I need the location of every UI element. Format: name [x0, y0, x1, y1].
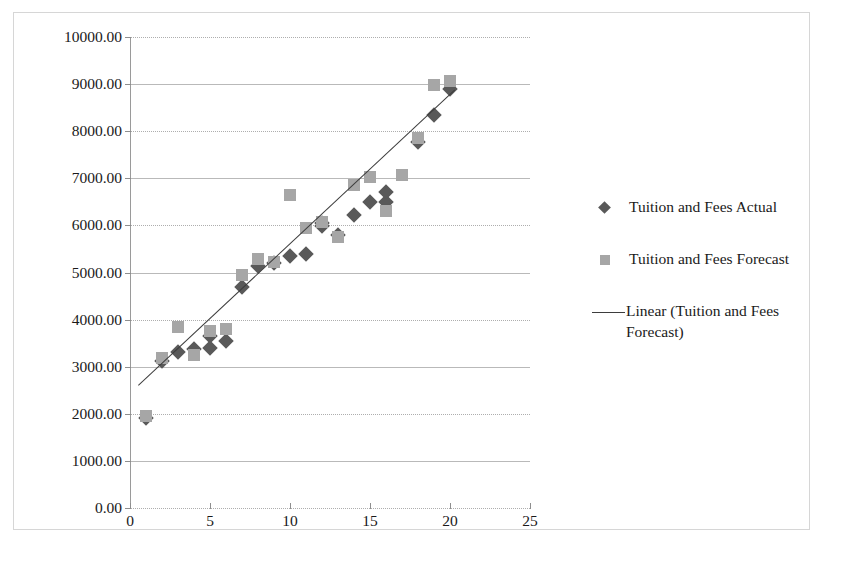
y-axis-tick-label: 9000.00	[10, 76, 122, 92]
diamond-marker-icon	[598, 201, 611, 214]
data-point-diamond	[346, 207, 362, 223]
data-point-square	[412, 132, 424, 144]
data-point-square	[444, 75, 456, 87]
data-point-square	[396, 169, 408, 181]
y-axis-tick-label: 8000.00	[10, 123, 122, 139]
legend-item-trendline[interactable]: Linear (Tuition and Fees Forecast)	[596, 300, 828, 342]
x-axis-tick-label: 25	[510, 513, 550, 529]
plot-area	[130, 37, 530, 508]
data-point-square	[252, 253, 264, 265]
y-axis-tick-label: 10000.00	[10, 29, 122, 45]
x-axis-tick-label: 15	[350, 513, 390, 529]
legend-label-actual: Tuition and Fees Actual	[629, 196, 828, 217]
line-marker-icon	[592, 312, 625, 313]
data-point-square	[428, 79, 440, 91]
data-point-square	[380, 205, 392, 217]
trendline	[138, 89, 455, 386]
gridline	[130, 508, 530, 509]
x-axis-tick-label: 0	[110, 513, 150, 529]
legend-item-actual[interactable]: Tuition and Fees Actual	[596, 196, 828, 218]
legend-label-trendline: Linear (Tuition and Fees Forecast)	[626, 300, 828, 342]
chart-legend: Tuition and Fees Actual Tuition and Fees…	[596, 196, 828, 342]
data-point-square	[172, 321, 184, 333]
y-axis-tick-label: 6000.00	[10, 217, 122, 233]
data-point-square	[188, 349, 200, 361]
data-point-diamond	[202, 340, 218, 356]
x-axis-tick-label: 20	[430, 513, 470, 529]
data-point-diamond	[282, 248, 298, 264]
legend-label-forecast: Tuition and Fees Forecast	[629, 248, 828, 269]
data-point-square	[332, 231, 344, 243]
y-axis-tick-label: 0.00	[10, 500, 122, 516]
y-axis-tick-label: 1000.00	[10, 453, 122, 469]
scatter-chart: 0.001000.002000.003000.004000.005000.006…	[0, 0, 859, 568]
y-axis-tick-label: 2000.00	[10, 406, 122, 422]
data-point-square	[284, 189, 296, 201]
x-axis-tick-label: 5	[190, 513, 230, 529]
x-axis-tick-label: 10	[270, 513, 310, 529]
data-point-diamond	[298, 246, 314, 262]
data-point-square	[204, 325, 216, 337]
data-point-square	[140, 410, 152, 422]
legend-item-forecast[interactable]: Tuition and Fees Forecast	[596, 248, 828, 270]
y-axis-tick-label: 3000.00	[10, 359, 122, 375]
x-axis-tick	[530, 503, 531, 509]
y-axis-tick-label: 7000.00	[10, 170, 122, 186]
data-point-square	[236, 269, 248, 281]
y-axis-tick-label: 4000.00	[10, 312, 122, 328]
data-point-diamond	[362, 194, 378, 210]
data-point-square	[220, 323, 232, 335]
y-axis-tick-label: 5000.00	[10, 265, 122, 281]
data-point-diamond	[218, 333, 234, 349]
square-marker-icon	[600, 255, 610, 265]
y-axis-labels: 0.001000.002000.003000.004000.005000.006…	[0, 0, 122, 520]
